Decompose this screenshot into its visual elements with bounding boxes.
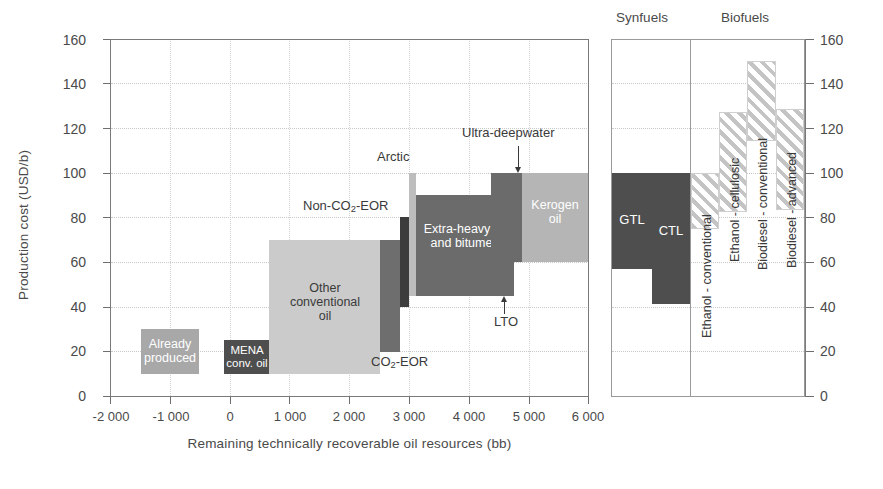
right-y-tick-160: 160 bbox=[820, 33, 876, 47]
right-y-tick-100: 100 bbox=[820, 166, 876, 180]
x-tickmark-6000 bbox=[588, 397, 589, 404]
right-y-tick-140: 140 bbox=[820, 77, 876, 91]
gridline-140 bbox=[111, 83, 589, 84]
right-y-tickmark-0 bbox=[806, 396, 814, 397]
y-tick-140: 140 bbox=[32, 77, 86, 91]
bar-kerogen-oil[interactable] bbox=[522, 173, 588, 262]
right-y-tick-40: 40 bbox=[820, 300, 876, 314]
bar-other-conventional-oil[interactable] bbox=[269, 240, 380, 374]
right-y-tickmark-20 bbox=[806, 351, 814, 352]
x-tickmark-0 bbox=[230, 397, 231, 404]
bar-label-ethanol-conventional: Ethanol - conventional bbox=[701, 214, 714, 338]
right-y-tickmark-80 bbox=[806, 217, 814, 218]
bar-arctic[interactable] bbox=[409, 173, 416, 296]
ultra-deepwater-arrow-head bbox=[515, 167, 521, 173]
right-y-axis-line bbox=[805, 39, 806, 397]
x-tickmark--1000 bbox=[170, 397, 171, 404]
x-tickmark-4000 bbox=[469, 397, 470, 404]
bar-label-biodiesel-advanced: Biodiesel - advanced bbox=[786, 152, 799, 268]
right-gridline-20 bbox=[612, 351, 804, 352]
bar-lto[interactable] bbox=[491, 173, 514, 296]
y-tick-60: 60 bbox=[32, 255, 86, 269]
bar-label-biodiesel-conventional: Biodiesel - conventional bbox=[757, 138, 770, 270]
y-tick-100: 100 bbox=[32, 166, 86, 180]
x-tick-label-6000: 6 000 bbox=[552, 410, 624, 423]
bar-label-lto: LTO bbox=[494, 315, 518, 328]
y-tick-80: 80 bbox=[32, 211, 86, 225]
right-y-tickmark-100 bbox=[806, 173, 814, 174]
y-tick-40: 40 bbox=[32, 300, 86, 314]
ultra-deepwater-arrow-line bbox=[518, 146, 519, 168]
bar-biodiesel-conventional[interactable] bbox=[747, 61, 776, 141]
right-y-tick-20: 20 bbox=[820, 344, 876, 358]
left-plot-right-border bbox=[588, 39, 589, 397]
bar-co2-eor[interactable] bbox=[380, 240, 400, 352]
bar-label-non-co2-eor: Non-CO2-EOR bbox=[303, 199, 388, 214]
group-header-biofuels: Biofuels bbox=[690, 10, 800, 25]
right-y-tickmark-60 bbox=[806, 262, 814, 263]
right-y-tick-120: 120 bbox=[820, 122, 876, 136]
y-tick-120: 120 bbox=[32, 122, 86, 136]
y-tick-0: 0 bbox=[32, 389, 86, 403]
right-y-tick-80: 80 bbox=[820, 211, 876, 225]
right-y-tick-60: 60 bbox=[820, 255, 876, 269]
left-y-axis-line bbox=[110, 39, 111, 397]
bar-gtl[interactable] bbox=[612, 173, 652, 269]
y-tick-160: 160 bbox=[32, 33, 86, 47]
y-axis-title: Production cost (USD/b) bbox=[16, 150, 31, 300]
right-y-tickmark-140 bbox=[806, 83, 814, 84]
x-tickmark-2000 bbox=[349, 397, 350, 404]
bar-label-ultra-deepwater: Ultra-deepwater bbox=[462, 126, 555, 139]
lto-arrow-head bbox=[501, 296, 507, 302]
bar-label-co2-eor: CO2-EOR bbox=[371, 355, 428, 370]
left-plot-top-border bbox=[111, 39, 589, 40]
x-tickmark-5000 bbox=[529, 397, 530, 404]
right-y-tickmark-120 bbox=[806, 128, 814, 129]
bar-non-co2-eor[interactable] bbox=[400, 217, 409, 307]
bar-label-ethanol-cellulosic: Ethanol - cellulosic bbox=[729, 158, 742, 262]
x-tickmark-3000 bbox=[409, 397, 410, 404]
right-y-tickmark-160 bbox=[806, 39, 814, 40]
x-tickmark-1000 bbox=[289, 397, 290, 404]
x-axis-title: Remaining technically recoverable oil re… bbox=[110, 436, 589, 451]
right-y-tickmark-40 bbox=[806, 307, 814, 308]
y-tick-20: 20 bbox=[32, 344, 86, 358]
bar-ultra-deepwater[interactable] bbox=[514, 173, 522, 262]
chart-root: Production cost (USD/b) 160 140 120 100 … bbox=[0, 0, 883, 489]
x-tickmark--2000 bbox=[110, 397, 111, 404]
bar-ctl[interactable] bbox=[652, 173, 690, 304]
right-y-tick-0: 0 bbox=[820, 389, 876, 403]
group-header-synfuels: Synfuels bbox=[598, 10, 686, 25]
bar-already-produced[interactable] bbox=[141, 329, 199, 374]
bar-mena-conv-oil[interactable] bbox=[224, 340, 269, 374]
lto-arrow-line bbox=[504, 302, 505, 314]
bar-label-arctic: Arctic bbox=[377, 150, 410, 163]
